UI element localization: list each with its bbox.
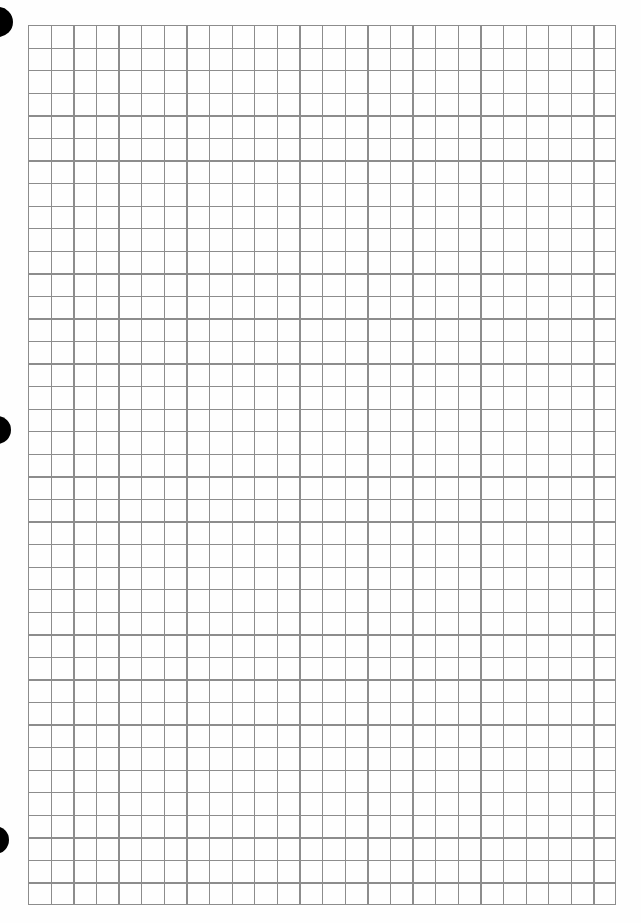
punch-hole-middle (0, 416, 11, 444)
punch-hole-bottom (0, 826, 9, 854)
grid-line-horizontal (29, 93, 615, 94)
grid-line-horizontal (29, 521, 615, 522)
grid-line-horizontal (29, 747, 615, 748)
grid-line-vertical (390, 26, 391, 904)
grid-line-vertical (209, 26, 210, 904)
grid-line-horizontal (29, 589, 615, 590)
grid-line-vertical (367, 26, 368, 904)
grid-line-horizontal (29, 454, 615, 455)
grid-line-vertical (299, 26, 300, 904)
punch-hole-top (0, 7, 13, 37)
grid-line-vertical (322, 26, 323, 904)
graph-paper-page (0, 0, 641, 923)
grid-line-horizontal (29, 634, 615, 635)
grid-line-vertical (232, 26, 233, 904)
grid-line-vertical (345, 26, 346, 904)
grid-line-vertical (277, 26, 278, 904)
grid-line-vertical (51, 26, 52, 904)
grid-line-horizontal (29, 48, 615, 49)
grid-line-vertical (96, 26, 97, 904)
grid-line-vertical (571, 26, 572, 904)
grid-line-vertical (480, 26, 481, 904)
grid-line-horizontal (29, 499, 615, 500)
grid-line-horizontal (29, 115, 615, 116)
grid-line-horizontal (29, 409, 615, 410)
grid-line-horizontal (29, 296, 615, 297)
grid-line-horizontal (29, 70, 615, 71)
grid-line-horizontal (29, 882, 615, 883)
grid-line-horizontal (29, 679, 615, 680)
grid-line-horizontal (29, 657, 615, 658)
grid-line-vertical (412, 26, 413, 904)
grid-line-horizontal (29, 183, 615, 184)
grid-line-horizontal (29, 770, 615, 771)
grid-line-horizontal (29, 567, 615, 568)
grid-line-vertical (503, 26, 504, 904)
grid-line-vertical (141, 26, 142, 904)
grid-line-horizontal (29, 138, 615, 139)
grid-line-horizontal (29, 318, 615, 319)
grid-line-vertical (458, 26, 459, 904)
grid-line-horizontal (29, 860, 615, 861)
grid-line-horizontal (29, 228, 615, 229)
grid-line-horizontal (29, 702, 615, 703)
grid-line-horizontal (29, 792, 615, 793)
grid-line-vertical (593, 26, 594, 904)
grid-line-horizontal (29, 160, 615, 161)
grid-line-vertical (548, 26, 549, 904)
grid-line-horizontal (29, 544, 615, 545)
grid-line-vertical (118, 26, 119, 904)
grid-line-vertical (435, 26, 436, 904)
grid-line-vertical (254, 26, 255, 904)
grid-line-vertical (164, 26, 165, 904)
grid-line-horizontal (29, 815, 615, 816)
grid-line-vertical (186, 26, 187, 904)
grid-line-horizontal (29, 431, 615, 432)
grid-line-horizontal (29, 476, 615, 477)
grid-line-horizontal (29, 363, 615, 364)
grid-line-horizontal (29, 206, 615, 207)
grid-line-vertical (73, 26, 74, 904)
grid-line-horizontal (29, 341, 615, 342)
grid-line-horizontal (29, 612, 615, 613)
grid-line-horizontal (29, 251, 615, 252)
grid-line-horizontal (29, 724, 615, 725)
grid-line-horizontal (29, 386, 615, 387)
grid-line-horizontal (29, 837, 615, 838)
grid-line-vertical (526, 26, 527, 904)
grid-area (28, 25, 616, 905)
grid-line-horizontal (29, 273, 615, 274)
